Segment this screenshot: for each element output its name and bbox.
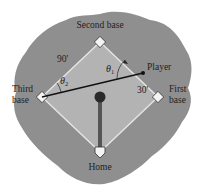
third-base-label-line2: base — [12, 95, 29, 105]
first-base-label-line1: First — [169, 84, 187, 94]
player-distance-label: 30' — [137, 85, 149, 95]
first-base-label-line2: base — [169, 95, 186, 105]
home-label: Home — [88, 162, 111, 172]
baseball-diamond-diagram: Second base 90' θ1 Player θ2 Third base … — [0, 0, 200, 193]
pitchers-mound — [95, 92, 106, 103]
third-base-label-line1: Third — [12, 84, 33, 94]
player-marker — [141, 71, 145, 75]
second-base-label: Second base — [76, 20, 123, 30]
side-length-label: 90' — [57, 54, 69, 64]
player-label: Player — [147, 62, 172, 72]
